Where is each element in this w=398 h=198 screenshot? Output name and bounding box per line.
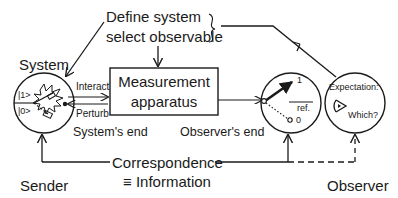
- define-system-label: Define system: [106, 9, 201, 24]
- system-end-label: System's end: [73, 126, 148, 139]
- perturb-label: Perturb: [76, 109, 109, 119]
- sender-label: Sender: [20, 178, 68, 193]
- meter-mark-zero: 0: [296, 116, 301, 125]
- select-observable-label: select observable: [106, 29, 223, 44]
- observer-label: Observer: [327, 178, 389, 193]
- expectation-label: Expectation:: [329, 83, 379, 92]
- state-one-label: |1>: [18, 91, 31, 100]
- observer-feedback-arrow: [221, 26, 336, 77]
- which-label: Which?: [348, 111, 378, 120]
- define-to-system-arrow: [66, 22, 104, 76]
- information-label: ≡ Information: [123, 174, 211, 189]
- system-title: System: [19, 57, 69, 72]
- measurement-diagram: Define system select observable System |…: [0, 0, 398, 198]
- state-zero-label: |0>: [18, 107, 31, 116]
- apparatus-line2: apparatus: [110, 94, 218, 109]
- meter-circle: [261, 73, 321, 133]
- interact-label: Interact: [76, 82, 109, 92]
- meter-mark-one: 1: [297, 76, 302, 85]
- observer-end-label: Observer's end: [180, 126, 264, 139]
- meter-ref-label: ref.: [297, 104, 310, 113]
- system-circle: [14, 73, 74, 133]
- correspondence-label: Correspondence: [112, 155, 223, 170]
- apparatus-line1: Measurement: [110, 74, 218, 89]
